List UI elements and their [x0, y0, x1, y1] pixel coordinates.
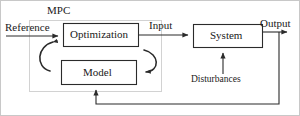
- model-to-optimization-curved-arrow: [40, 42, 53, 71]
- mpc-group-label: MPC: [47, 5, 70, 16]
- output-label: Output: [260, 18, 291, 29]
- mpc-block-diagram: MPC Reference Input Output Disturbances …: [0, 0, 300, 116]
- disturbances-label: Disturbances: [191, 75, 241, 85]
- model-label: Model: [83, 67, 112, 78]
- input-label: Input: [149, 20, 172, 31]
- optimization-to-model-curved-arrow: [144, 50, 156, 72]
- optimization-label: Optimization: [70, 29, 128, 40]
- system-label: System: [210, 30, 242, 41]
- reference-label: Reference: [5, 22, 50, 33]
